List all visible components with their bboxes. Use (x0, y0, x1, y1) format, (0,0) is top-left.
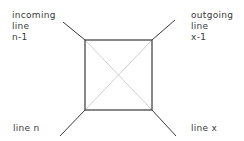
outgoing-label: outgoing line x-1 (191, 10, 233, 43)
outgoing-label-line1: outgoing (191, 10, 233, 21)
outgoing-label-line2: line (191, 21, 233, 32)
incoming-label: incoming line n-1 (12, 10, 56, 43)
incoming-label-line3: n-1 (12, 32, 56, 43)
line-x-label: line x (191, 123, 217, 134)
incoming-line-n-1 (63, 22, 85, 40)
outgoing-line-x-1 (152, 20, 175, 40)
junction-diagram: incoming line n-1 outgoing line x-1 line… (0, 0, 244, 141)
incoming-label-line2: line (12, 21, 56, 32)
outgoing-label-line3: x-1 (191, 32, 233, 43)
line-n (60, 110, 85, 136)
line-x (152, 110, 176, 136)
line-n-label: line n (13, 123, 40, 134)
incoming-label-line1: incoming (12, 10, 56, 21)
